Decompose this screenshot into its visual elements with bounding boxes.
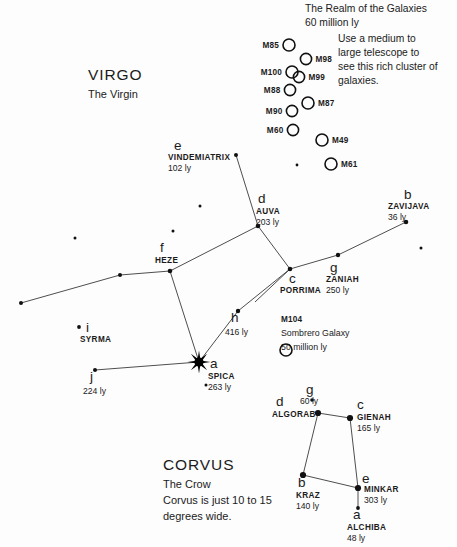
star-chart: M85M98M100M99M88M87M90M60M49M61 eVINDEMI…: [0, 0, 457, 547]
star-distance-alchiba: 48 ly: [347, 533, 366, 543]
star-distance-g: 60 ly: [300, 396, 319, 406]
constellation-line-porrima-zaniah-zavijava: [290, 222, 406, 269]
star-point-syrma: [77, 325, 81, 329]
galaxy-label-m90: M90: [266, 107, 283, 116]
virgo-label-block: VIRGO The Virgin: [88, 66, 142, 100]
virgo-name: VIRGO: [88, 66, 142, 83]
galaxy-label-m49: M49: [332, 136, 349, 145]
galaxy-icon-m88: [284, 84, 295, 95]
star-name-auva: AUVA: [256, 207, 280, 216]
galaxy-icon-m60: [287, 124, 298, 135]
realm-note-line1: The Realm of the Galaxies: [305, 3, 427, 14]
greek-letter-gienah: c: [357, 397, 364, 412]
star-point-gienah: [347, 415, 353, 421]
star-point-vindemiatrix: [234, 153, 238, 157]
star-name-heze: HEZE: [155, 256, 178, 265]
star-name-zavijava: ZAVIJAVA: [388, 202, 429, 211]
constellation-line-porrima-h-spica: [199, 269, 290, 362]
greek-letter-minkar: e: [362, 471, 370, 486]
constellation-line-vindemiatrix-auva: [236, 155, 258, 226]
constellation-line-auva-porrima: [258, 226, 290, 269]
telescope-note-line4: galaxies.: [338, 75, 379, 86]
star-point-heze: [168, 269, 173, 274]
constellation-line-corvus-kraz-minkar: [303, 475, 358, 488]
greek-letter-j: j: [89, 369, 93, 384]
star-chart-canvas: M85M98M100M99M88M87M90M60M49M61 eVINDEMI…: [0, 0, 457, 547]
constellation-line-heze-chain-west: [21, 271, 170, 303]
galaxy-label-m100: M100: [261, 68, 283, 77]
star-name-spica: SPICA: [208, 372, 235, 381]
constellation-line-corvus-algorab-gienah: [318, 413, 350, 418]
star-point-faint: [296, 164, 299, 167]
star-point-faint: [420, 247, 423, 250]
galaxy-markers: M85M98M100M99M88M87M90M60M49M61: [261, 39, 358, 170]
star-name-minkar: MINKAR: [364, 485, 399, 494]
realm-note-line2: 60 million ly: [305, 17, 360, 28]
star-name-syrma: SYRMA: [80, 335, 111, 344]
star-name-zaniah: ZANIAH: [326, 275, 359, 284]
m104-note-block: M104 Sombrero Galaxy 50 million ly: [280, 315, 350, 356]
virgo-subtitle: The Virgin: [88, 88, 138, 100]
star-distance-gienah: 165 ly: [357, 423, 381, 433]
greek-letter-zaniah: g: [330, 260, 338, 275]
galaxy-label-m87: M87: [318, 99, 335, 108]
galaxy-icon-m90: [286, 105, 297, 116]
greek-letter-auva: d: [258, 191, 266, 206]
star-distance-h: 416 ly: [225, 327, 249, 337]
star-distance-spica: 263 ly: [208, 382, 232, 392]
corvus-name: CORVUS: [163, 456, 234, 473]
greek-letter-g: g: [306, 382, 314, 397]
greek-letter-algorab: d: [276, 394, 284, 409]
star-distance-minkar: 303 ly: [364, 495, 388, 505]
telescope-note-line3: see this rich cluster of: [338, 61, 438, 72]
corvus-note-line2: degrees wide.: [163, 510, 232, 522]
star-distance-vindemiatrix: 102 ly: [168, 163, 192, 173]
m104-label: M104: [281, 315, 303, 324]
corvus-note-line1: Corvus is just 10 to 15: [163, 494, 272, 506]
star-point-faint: [199, 205, 202, 208]
star-name-gienah: GIENAH: [357, 413, 391, 422]
star-point-faint: [118, 273, 122, 277]
corvus-label-block: CORVUS The Crow Corvus is just 10 to 15 …: [163, 456, 272, 522]
greek-letter-spica: a: [210, 356, 218, 371]
star-point-minkar: [355, 485, 361, 491]
galaxy-label-m61: M61: [341, 160, 358, 169]
greek-letter-zavijava: b: [404, 187, 412, 202]
spica-core: [194, 357, 203, 366]
galaxy-icon-m98: [300, 53, 311, 64]
star-point-faint: [93, 368, 97, 372]
galaxy-label-m98: M98: [316, 55, 333, 64]
realm-note-block: The Realm of the Galaxies 60 million ly: [305, 3, 427, 28]
star-distance-zavijava: 36 ly: [388, 212, 407, 222]
galaxy-icon-m87: [302, 97, 314, 109]
telescope-note-line2: large telescope to: [338, 47, 420, 58]
star-point-faint: [19, 301, 23, 305]
galaxy-label-m60: M60: [267, 126, 284, 135]
greek-letter-syrma: i: [86, 320, 89, 335]
greek-letter-porrima: c: [289, 271, 296, 286]
galaxy-icon-m49: [316, 134, 328, 146]
star-name-vindemiatrix: VINDEMIATRIX: [168, 153, 230, 162]
star-distance-zaniah: 250 ly: [326, 285, 350, 295]
constellation-line-corvus-algorab-kraz: [303, 413, 318, 475]
galaxy-label-m85: M85: [262, 41, 279, 50]
galaxy-label-m88: M88: [264, 86, 281, 95]
greek-letter-heze: f: [160, 240, 164, 255]
m104-name: Sombrero Galaxy: [281, 328, 350, 338]
star-distance-kraz: 140 ly: [296, 501, 320, 511]
star-point-zaniah: [336, 253, 340, 257]
corvus-subtitle: The Crow: [163, 478, 211, 490]
greek-letter-vindemiatrix: e: [174, 138, 182, 153]
star-name-algorab: ALGORAB: [272, 410, 316, 419]
star-labels: eVINDEMIATRIX102 lydAUVA203 lybZAVIJAVA3…: [80, 138, 429, 543]
greek-letter-h: h: [231, 310, 239, 325]
constellation-line-heze-spica: [170, 271, 199, 362]
galaxy-icon-m85: [283, 39, 295, 51]
telescope-note-line1: Use a medium to: [338, 33, 416, 44]
star-point-faint: [74, 237, 77, 240]
telescope-note-block: Use a medium to large telescope to see t…: [338, 33, 438, 86]
star-name-porrima: PORRIMA: [280, 286, 321, 295]
constellation-line-auva-heze: [170, 226, 258, 271]
star-distance-j: 224 ly: [83, 386, 107, 396]
galaxy-label-m99: M99: [309, 73, 326, 82]
